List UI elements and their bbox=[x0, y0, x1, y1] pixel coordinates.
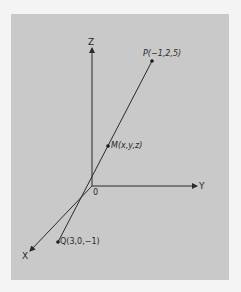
y-axis-label: Y bbox=[199, 182, 205, 191]
z-axis-label: Z bbox=[88, 38, 94, 47]
point-p-label: P(−1,2,5) bbox=[143, 50, 181, 58]
x-axis-label: X bbox=[22, 252, 28, 261]
point-p bbox=[150, 59, 154, 63]
point-m bbox=[106, 144, 110, 148]
origin-label: 0 bbox=[93, 189, 98, 197]
point-q-label: Q(3,0,−1) bbox=[60, 238, 100, 246]
line-pq bbox=[58, 61, 152, 242]
point-m-label: M(x,y,z) bbox=[111, 142, 142, 150]
